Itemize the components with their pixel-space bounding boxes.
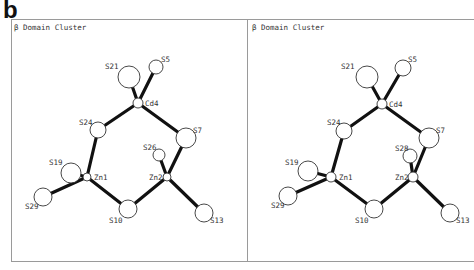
atom-label: S13	[210, 216, 224, 225]
atom-label: Zn2	[395, 173, 409, 182]
atom-label: Cd4	[145, 99, 159, 108]
atom-s21-left	[118, 66, 140, 88]
atom-label: S5	[161, 55, 170, 64]
atom-label: S21	[105, 62, 119, 71]
atom-label: S10	[355, 216, 369, 225]
atom-s21-right	[356, 66, 378, 88]
atom-cd4-left	[133, 98, 143, 108]
atom-zn1-right	[326, 172, 336, 182]
atom-label: S10	[109, 216, 123, 225]
atom-s19-left	[61, 163, 81, 183]
atom-cd4-right	[377, 99, 387, 109]
atom-label: Zn1	[339, 173, 353, 182]
atom-label: Zn2	[149, 173, 163, 182]
atom-label: S29	[25, 202, 39, 211]
atom-label: S29	[271, 201, 285, 210]
atom-s19-right	[298, 161, 318, 181]
atom-label: S19	[285, 158, 299, 167]
labels-layer: S21S5Cd4S24S7S26Zn1Zn2S19S29S10S13S21S5C…	[25, 55, 470, 225]
atom-label: Cd4	[389, 100, 403, 109]
atom-label: Zn1	[94, 173, 108, 182]
atom-label: S24	[79, 118, 93, 127]
atom-label: S19	[49, 158, 63, 167]
atom-label: S13	[456, 216, 470, 225]
molecular-structure-stereo-pair: S21S5Cd4S24S7S26Zn1Zn2S19S29S10S13S21S5C…	[0, 0, 474, 270]
atom-label: S24	[327, 118, 341, 127]
atom-label: S5	[408, 55, 417, 64]
bonds-layer	[43, 67, 450, 213]
atom-label: S7	[193, 126, 202, 135]
atom-zn2-right	[408, 172, 418, 182]
atom-label: S28	[395, 144, 409, 153]
atom-zn2-left	[163, 173, 171, 181]
atom-label: S26	[143, 143, 157, 152]
atom-label: S21	[341, 62, 355, 71]
atom-zn1-left	[83, 173, 91, 181]
atom-label: S7	[436, 126, 445, 135]
